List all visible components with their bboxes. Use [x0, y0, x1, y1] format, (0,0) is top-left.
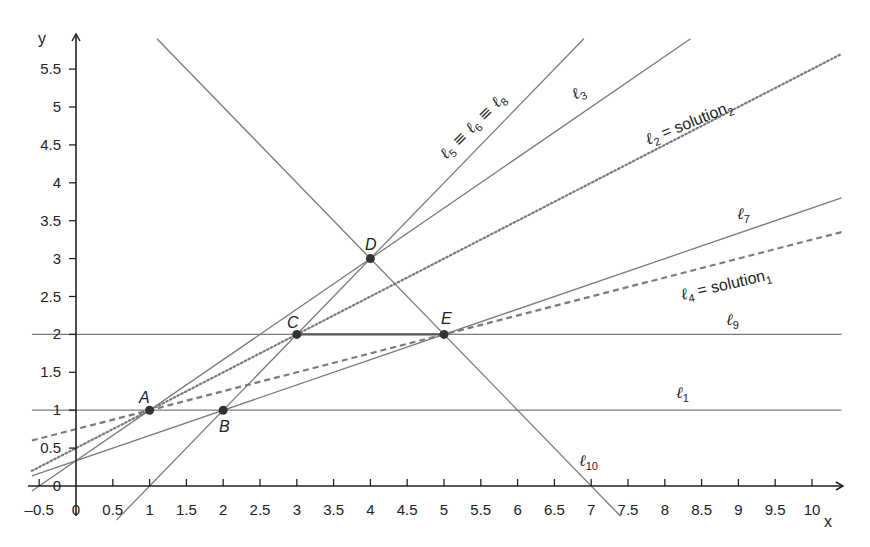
line-2 — [157, 39, 621, 517]
x-tick-label: 1 — [145, 501, 153, 518]
x-tick-label: 3.5 — [323, 501, 344, 518]
y-tick-label: 0.5 — [40, 439, 61, 456]
line-6 — [32, 198, 842, 476]
x-tick-label: 5 — [440, 501, 448, 518]
point-label-b: B — [219, 418, 230, 435]
x-tick-label: 9 — [734, 501, 742, 518]
y-tick-label: 1 — [53, 401, 61, 418]
y-tick-label: 3 — [53, 250, 61, 267]
line-label-l7: ℓ7 — [737, 204, 750, 225]
y-tick-label: 1.5 — [40, 363, 61, 380]
y-tick-label: 4 — [53, 174, 61, 191]
chart: –0.500.511.522.533.544.555.566.577.588.5… — [0, 0, 870, 547]
x-tick-label: 8.5 — [691, 501, 712, 518]
point-label-d: D — [365, 236, 377, 253]
x-tick-label: 6.5 — [544, 501, 565, 518]
y-tick-label: 0 — [53, 477, 61, 494]
point-label-a: A — [138, 389, 150, 406]
x-tick-label: 3 — [293, 501, 301, 518]
point-label-c: C — [287, 314, 299, 331]
x-tick-label: 0.5 — [102, 501, 123, 518]
line-label-l2: ℓ2 = solution2 — [642, 97, 735, 151]
line-label-l1: ℓ1 — [676, 383, 689, 404]
line-3 — [116, 39, 583, 520]
point-label-e: E — [441, 310, 452, 327]
point-e — [440, 330, 449, 339]
x-tick-label: 7 — [587, 501, 595, 518]
x-tick-label: 5.5 — [470, 501, 491, 518]
x-tick-label: 10 — [804, 501, 821, 518]
x-tick-label: 8 — [661, 501, 669, 518]
x-tick-label: 4.5 — [397, 501, 418, 518]
x-tick-label: 6 — [513, 501, 521, 518]
x-tick-label: 0 — [72, 501, 80, 518]
y-tick-label: 3.5 — [40, 212, 61, 229]
y-tick-label: 2.5 — [40, 288, 61, 305]
point-c — [292, 330, 301, 339]
x-tick-label: 2 — [219, 501, 227, 518]
y-tick-label: 5.5 — [40, 60, 61, 77]
line-label-l9: ℓ9 — [726, 310, 739, 331]
line-4 — [32, 39, 691, 491]
y-axis-label: y — [38, 30, 46, 47]
x-tick-label: 2.5 — [250, 501, 271, 518]
line-label-l10: ℓ10 — [579, 451, 598, 472]
x-tick-label: –0.5 — [25, 501, 54, 518]
y-tick-label: 4.5 — [40, 136, 61, 153]
x-tick-label: 9.5 — [765, 501, 786, 518]
y-tick-label: 2 — [53, 325, 61, 342]
line-label-l3: ℓ3 — [568, 81, 589, 106]
point-d — [366, 254, 375, 263]
y-tick-label: 5 — [53, 98, 61, 115]
x-tick-label: 7.5 — [618, 501, 639, 518]
x-tick-label: 1.5 — [176, 501, 197, 518]
point-a — [145, 406, 154, 415]
x-tick-label: 4 — [366, 501, 374, 518]
point-b — [219, 406, 228, 415]
x-axis-label: x — [824, 513, 832, 530]
